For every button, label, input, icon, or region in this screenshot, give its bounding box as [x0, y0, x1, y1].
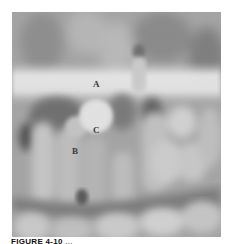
label-b: B [72, 147, 78, 156]
label-c: C [93, 126, 100, 135]
caption-text: ... [63, 238, 73, 244]
dental-radiograph-image [12, 12, 221, 237]
label-a: A [93, 80, 100, 89]
figure-caption: FIGURE 4-10 ... [11, 238, 231, 244]
figure-number: FIGURE 4-10 [11, 238, 63, 244]
radiograph-figure: A B C [12, 12, 221, 237]
